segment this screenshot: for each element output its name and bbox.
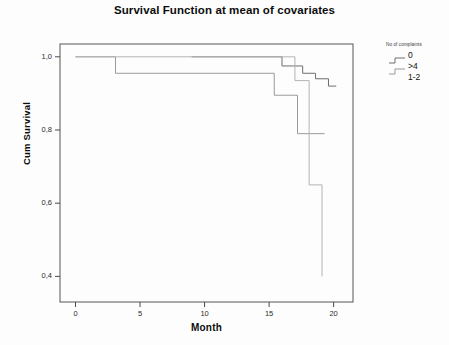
- legend-step-line-icon: [388, 73, 406, 82]
- legend-entry[interactable]: 0: [388, 50, 448, 61]
- legend: No of complaints 0>41-2: [386, 42, 448, 83]
- x-tick-label: 5: [130, 309, 150, 318]
- legend-step-line-icon: [388, 62, 406, 71]
- legend-step-line-icon: [388, 51, 406, 60]
- y-tick-label: 1,0: [28, 52, 52, 61]
- survival-chart: Survival Function at mean of covariates …: [0, 0, 449, 345]
- y-tick-label: 0,8: [28, 125, 52, 134]
- legend-label: 1-2: [408, 73, 420, 82]
- legend-entries: 0>41-2: [386, 50, 448, 83]
- legend-entry[interactable]: 1-2: [388, 72, 448, 83]
- y-axis-ticks: [55, 57, 60, 277]
- legend-entry[interactable]: >4: [388, 61, 448, 72]
- legend-label: 0: [408, 51, 413, 60]
- x-tick-label: 10: [195, 309, 215, 318]
- x-tick-label: 0: [65, 309, 85, 318]
- legend-label: >4: [408, 62, 418, 71]
- y-axis-title: Cum Survival: [21, 84, 32, 184]
- plot-area: [0, 0, 449, 345]
- x-tick-label: 15: [259, 309, 279, 318]
- y-tick-label: 0,4: [28, 271, 52, 280]
- legend-title: No of complaints: [386, 42, 448, 47]
- x-axis-ticks: [75, 302, 333, 307]
- x-tick-label: 20: [324, 309, 344, 318]
- x-axis-title: Month: [60, 322, 353, 333]
- y-tick-label: 0,6: [28, 198, 52, 207]
